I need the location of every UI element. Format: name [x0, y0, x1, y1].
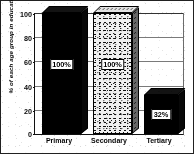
bar-tertiary-value-label: 32% [151, 109, 171, 120]
bar-chart-figure: % of each age group in education 100 80 … [0, 0, 194, 154]
tick-mark-100 [33, 14, 36, 15]
tick-mark-60 [33, 62, 36, 63]
y-tick-label-80: 80 [24, 34, 32, 43]
x-axis-category-labels: Primary Secondary Tertiary [34, 137, 184, 151]
bar-tertiary: 32% [144, 95, 178, 134]
y-tick-label-0: 0 [28, 130, 32, 139]
y-tick-label-60: 60 [24, 58, 32, 67]
bar-primary-side-face [81, 7, 88, 134]
bar-primary-value-label: 100% [50, 59, 74, 70]
bar-secondary-value-label: 100% [101, 59, 125, 70]
x-tick-label-secondary: Secondary [84, 137, 134, 151]
bar-primary: 100% [42, 13, 81, 134]
bar-tertiary-side-face [178, 89, 185, 134]
tick-mark-20 [33, 111, 36, 112]
tick-mark-40 [33, 87, 36, 88]
x-tick-label-tertiary: Tertiary [134, 137, 184, 151]
tick-mark-0 [33, 134, 36, 135]
bar-secondary: 100% [93, 13, 132, 134]
bar-secondary-front-face [93, 13, 132, 134]
y-tick-label-40: 40 [24, 82, 32, 91]
bar-secondary-side-face [132, 7, 139, 134]
plot-area: 100 80 60 40 20 0 100% [34, 13, 184, 135]
bar-primary-front-face [42, 13, 81, 134]
y-axis-title: % of each age group in education [7, 0, 14, 104]
y-tick-label-20: 20 [24, 106, 32, 115]
y-tick-label-100: 100 [20, 10, 32, 19]
x-tick-label-primary: Primary [34, 137, 84, 151]
tick-mark-80 [33, 38, 36, 39]
